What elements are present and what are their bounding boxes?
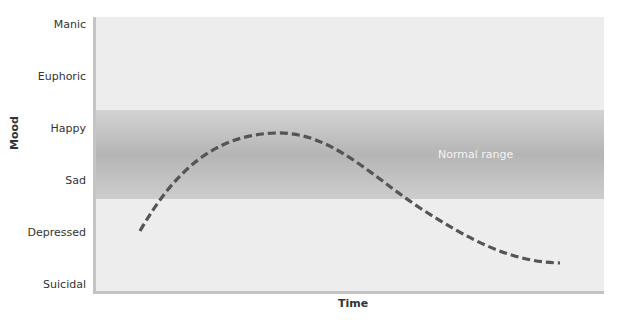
- mood-curve: [0, 0, 618, 320]
